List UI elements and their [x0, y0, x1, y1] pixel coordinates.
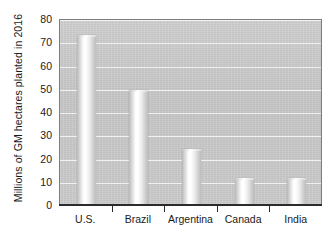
bar-top-cap [287, 178, 306, 180]
y-tick-label: 0 [22, 199, 52, 211]
x-tick-mark [269, 206, 270, 212]
y-tick-label: 60 [22, 60, 52, 72]
y-axis-ticks: 80706050403020100 [22, 13, 52, 205]
y-tick-label: 10 [22, 176, 52, 188]
bar-top-cap [129, 90, 148, 92]
bar-india [287, 178, 306, 204]
x-axis-line [59, 204, 322, 206]
x-axis-labels: U.S.BrazilArgentinaCanadaIndia [59, 213, 322, 233]
x-tick-mark [217, 206, 218, 212]
x-tick-mark [164, 206, 165, 212]
bar-argentina [182, 149, 201, 204]
y-tick-label: 50 [22, 83, 52, 95]
bars-group [60, 20, 321, 204]
y-tick-label: 80 [22, 13, 52, 25]
y-tick-label: 70 [22, 36, 52, 48]
bar-chart-figure: Millions of GM hectares planted in 2016 … [0, 0, 335, 236]
x-tick-label-india: India [265, 213, 327, 225]
x-tick-mark [112, 206, 113, 212]
plot-area [59, 19, 322, 205]
bar-canada [235, 178, 254, 204]
bar-brazil [129, 90, 148, 204]
bar-u-s [77, 35, 96, 204]
bar-top-cap [182, 149, 201, 151]
bar-top-cap [235, 178, 254, 180]
bar-top-cap [77, 35, 96, 37]
y-tick-label: 20 [22, 153, 52, 165]
y-tick-label: 40 [22, 106, 52, 118]
y-tick-label: 30 [22, 129, 52, 141]
